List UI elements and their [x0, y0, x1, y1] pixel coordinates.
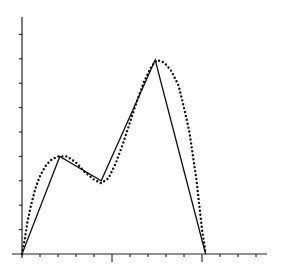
x-ticks: [40, 254, 256, 262]
series-layer: [22, 60, 206, 254]
chart: [0, 0, 282, 278]
axes: [12, 17, 267, 258]
solid-polyline: [22, 60, 206, 254]
dotted-curve: [22, 60, 206, 254]
